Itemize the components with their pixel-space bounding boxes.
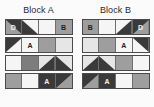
patch-row [82,55,150,71]
patch-label: D [6,20,22,34]
patch-cell: D [133,20,149,34]
patch-label: B [56,20,72,34]
patch-cell [39,56,56,70]
half-square-triangle-icon [22,20,38,34]
patch-cell [22,56,39,70]
block-b: Block B BDAA [77,0,154,107]
patch-row: A [5,73,73,89]
half-square-triangle-icon [6,38,22,52]
half-square-triangle-icon [116,20,132,34]
block-a: Block A DBAA [0,0,77,107]
patch-cell [83,38,100,52]
patch-cell: A [116,38,133,52]
patch-row [5,55,73,71]
block-diagram-container: Block A DBAA Block B BDAA [0,0,154,107]
patch-cell [56,74,72,88]
patch-cell [133,74,149,88]
patch-cell [133,56,149,70]
figure-canvas: Block A DBAA Block B BDAA [0,0,154,107]
patch-label: A [99,74,115,88]
patch-cell [6,56,23,70]
half-square-triangle-icon [83,74,99,88]
patch-cell [116,74,133,88]
patch-cell [56,38,72,52]
block-a-grid: DBAA [5,19,73,89]
patch-cell: D [6,20,23,34]
block-b-title: Block B [100,5,131,15]
patch-cell [99,20,116,34]
half-square-triangle-icon [133,38,149,52]
patch-cell [116,20,133,34]
patch-cell: A [39,74,56,88]
patch-cell [22,20,39,34]
patch-cell [83,56,100,70]
patch-row: BD [82,19,150,35]
patch-row: DB [5,19,73,35]
patch-cell [39,20,56,34]
patch-cell [99,56,116,70]
half-square-triangle-icon [56,56,72,70]
half-square-triangle-icon [99,56,115,70]
patch-cell [39,38,56,52]
patch-cell [56,56,72,70]
patch-cell: A [22,38,39,52]
patch-label: A [116,38,132,52]
patch-cell: A [99,74,116,88]
patch-cell [116,56,133,70]
patch-cell [133,38,149,52]
half-square-triangle-icon [56,74,72,88]
patch-cell: B [56,20,72,34]
patch-cell [22,74,39,88]
patch-cell [6,74,23,88]
patch-row: A [82,37,150,53]
patch-cell [6,38,23,52]
patch-row: A [82,73,150,89]
patch-label: A [39,74,55,88]
half-square-triangle-icon [39,56,55,70]
half-square-triangle-icon [83,56,99,70]
patch-row: A [5,37,73,53]
block-a-title: Block A [23,5,54,15]
block-b-grid: BDAA [82,19,150,89]
patch-label: D [133,20,149,34]
patch-label: A [22,38,38,52]
patch-cell [83,74,100,88]
patch-cell [99,38,116,52]
patch-cell: B [83,20,100,34]
patch-label: B [83,20,99,34]
